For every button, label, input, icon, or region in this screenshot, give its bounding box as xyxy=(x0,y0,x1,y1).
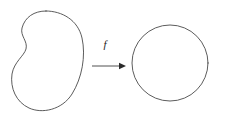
diagram-svg: f xyxy=(0,0,225,116)
codomain-circle-shape xyxy=(132,25,208,101)
mapping-arrow-head xyxy=(119,63,126,69)
diagram-canvas: f xyxy=(0,0,225,116)
function-label-f: f xyxy=(103,38,108,50)
domain-blob-shape xyxy=(12,11,84,111)
